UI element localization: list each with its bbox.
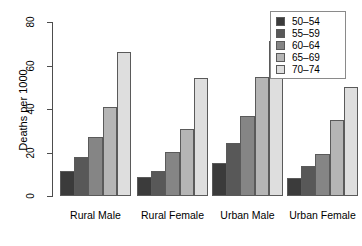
bar [60, 171, 75, 196]
bar [194, 78, 209, 196]
y-axis-tick [47, 109, 52, 110]
legend-item: 50–54 [276, 16, 339, 27]
bar [212, 163, 227, 196]
bar [74, 157, 89, 196]
y-axis-line [52, 22, 53, 197]
legend-swatch-icon [276, 53, 285, 62]
bar [255, 77, 270, 196]
bar [151, 171, 166, 196]
bar [103, 107, 118, 196]
bar [88, 137, 103, 196]
legend-label: 60–64 [292, 41, 320, 51]
x-axis-group-label: Urban Female [278, 209, 362, 221]
legend-item: 65–69 [276, 52, 339, 63]
legend-swatch-icon [276, 65, 285, 74]
legend-swatch-icon [276, 29, 285, 38]
legend-label: 55–59 [292, 29, 320, 39]
legend-label: 50–54 [292, 17, 320, 27]
legend-swatch-icon [276, 41, 285, 50]
bar [180, 129, 195, 196]
bar [344, 87, 359, 196]
legend-label: 70–74 [292, 65, 320, 75]
y-axis-tick [47, 22, 52, 23]
bar [137, 177, 152, 196]
legend-item: 55–59 [276, 28, 339, 39]
legend-label: 65–69 [292, 53, 320, 63]
legend-swatch-icon [276, 17, 285, 26]
bar [240, 116, 255, 196]
y-axis-tick-label: 80 [26, 12, 36, 32]
bar [165, 152, 180, 196]
bar [315, 154, 330, 196]
legend: 50–5455–5960–6465–6970–74 [270, 11, 346, 79]
bar [301, 166, 316, 196]
y-axis-tick [47, 196, 52, 197]
bar [226, 143, 241, 196]
y-axis-title: Deaths per 1000 [17, 50, 29, 170]
legend-item: 60–64 [276, 40, 339, 51]
bar [287, 178, 302, 196]
y-axis-tick [47, 66, 52, 67]
bar [117, 52, 132, 196]
legend-item: 70–74 [276, 64, 339, 75]
y-axis-tick [47, 153, 52, 154]
y-axis-tick-label: 0 [26, 186, 36, 206]
bar [330, 120, 345, 196]
